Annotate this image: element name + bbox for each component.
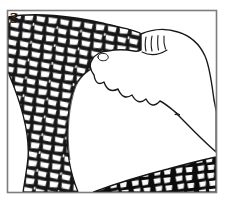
illustration-page: 3. — [0, 0, 227, 204]
step-number-label: 3. — [10, 10, 24, 26]
figure-illustration: 3. — [0, 0, 227, 204]
